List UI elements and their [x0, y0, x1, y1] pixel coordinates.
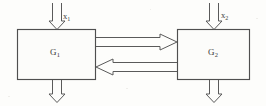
scan-speck	[256, 18, 258, 19]
block-g1-label-subscript: 1	[57, 51, 60, 58]
scan-speck	[8, 96, 10, 97]
block-g1-label: G1	[50, 47, 60, 57]
signal-x2-label: x2	[221, 10, 228, 20]
block-g2-label: G2	[208, 47, 218, 57]
signal-x2-label-subscript: 2	[225, 15, 228, 21]
signal-x1-label: x1	[63, 11, 70, 21]
scan-speck	[126, 88, 128, 89]
signal-x2-arrow	[206, 3, 222, 30]
block-g2-label-base: G	[208, 47, 215, 57]
scan-speck	[150, 9, 151, 10]
signal-g1-to-g2-arrow	[96, 34, 177, 50]
block-g1-label-base: G	[50, 47, 57, 57]
signal-g1-output-arrow	[49, 80, 65, 103]
block-g2-label-subscript: 2	[215, 51, 218, 58]
block-diagram-figure: G1 G2 x1 x2	[0, 0, 266, 106]
signal-x1-label-subscript: 1	[67, 16, 70, 22]
signal-g2-to-g1-arrow	[96, 59, 177, 75]
signal-g2-output-arrow	[206, 80, 222, 103]
